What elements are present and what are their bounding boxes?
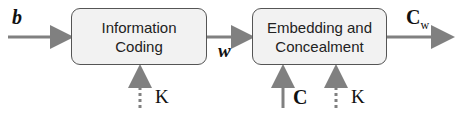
block-label-line2: Concealment xyxy=(267,37,372,56)
block-label-line2: Coding xyxy=(101,37,176,56)
block-label-line1: Information xyxy=(101,18,176,37)
intermediate-w-label: w xyxy=(218,40,231,62)
block-label-line1: Embedding and xyxy=(267,18,372,37)
cover-c-label: C xyxy=(293,86,307,109)
output-cw-label: Cw xyxy=(406,6,429,33)
key2-label: K xyxy=(351,86,365,108)
output-c-letter: C xyxy=(406,6,420,28)
embedding-concealment-block: Embedding and Concealment xyxy=(252,8,387,65)
input-b-label: b xyxy=(12,6,22,29)
information-coding-block: Information Coding xyxy=(71,8,207,65)
key1-label: K xyxy=(155,86,169,108)
output-c-subscript: w xyxy=(420,18,429,32)
